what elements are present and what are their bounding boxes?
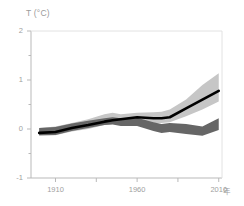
band-natural-only-band	[39, 117, 219, 136]
temperature-anomaly-chart: T (°C) 210-1 191019602010 年	[0, 0, 244, 206]
y-tick-label-3: -1	[7, 173, 23, 182]
y-tick-label-0: 2	[7, 26, 23, 35]
y-tick-label-1: 1	[7, 75, 23, 84]
x-tick-label-4: 2010	[202, 185, 236, 194]
chart-plot-area	[0, 0, 244, 206]
x-tick-label-0: 1910	[38, 185, 72, 194]
x-tick-label-2: 1960	[120, 185, 154, 194]
x-axis-unit-label: 年	[223, 185, 230, 196]
y-tick-label-2: 0	[7, 124, 23, 133]
